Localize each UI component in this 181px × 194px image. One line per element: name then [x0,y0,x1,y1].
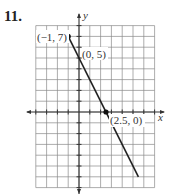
x-axis-label: x [157,111,163,123]
label-point-neg1-7: (−1, 7) [37,31,67,44]
line-graph: (−1, 7) (0, 5) (2.5, 0) x y [0,0,181,194]
label-point-0-5: (0, 5) [82,48,106,61]
y-axis-label: y [82,9,88,21]
label-point-2.5-0: (2.5, 0) [110,114,142,127]
point-2.5-0 [103,109,108,114]
